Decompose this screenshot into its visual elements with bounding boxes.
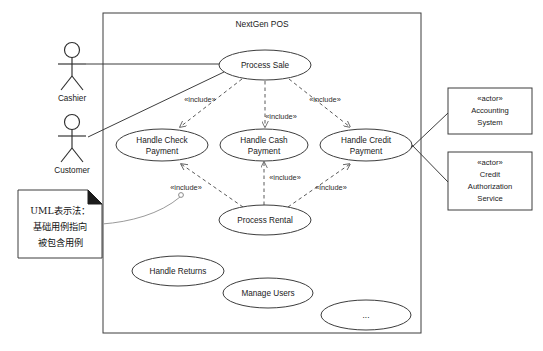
use-case-handle-returns: Handle Returns xyxy=(132,256,224,286)
actor-cashier-label: Cashier xyxy=(58,94,86,103)
use-case-handle-cash-payment-label-2: Payment xyxy=(248,147,281,156)
use-case-process-sale-label: Process Sale xyxy=(241,61,290,70)
uml-notation-note-line-1: UML表示法： xyxy=(30,205,89,216)
actor-customer: Customer xyxy=(54,115,90,176)
use-case-process-rental: Process Rental xyxy=(219,205,311,235)
use-case-handle-credit-payment-label-2: Payment xyxy=(350,147,383,156)
uml-notation-note-line-2: 基础用例指向 xyxy=(33,221,87,232)
uml-notation-note: UML表示法： 基础用例指向 被包含用例 xyxy=(18,190,102,258)
use-case-handle-cash-payment-label-1: Handle Cash xyxy=(240,136,288,145)
use-case-manage-users: Manage Users xyxy=(223,278,313,308)
external-actor-credit-authorization-service-stereotype: «actor» xyxy=(477,158,502,167)
external-actor-credit-authorization-service-name-1: Credit xyxy=(480,170,501,179)
note-connector-anchor-dot xyxy=(179,193,184,198)
use-case-ellipsis: ... xyxy=(321,300,411,330)
system-boundary-title: NextGen POS xyxy=(235,19,288,29)
use-case-handle-credit-payment: Handle Credit Payment xyxy=(320,129,412,161)
external-actor-credit-authorization-service: «actor» Credit Authorization Service xyxy=(448,152,532,210)
uml-notation-note-line-3: 被包含用例 xyxy=(38,237,83,248)
use-case-process-rental-label: Process Rental xyxy=(237,216,293,225)
use-case-handle-check-payment-label-2: Payment xyxy=(146,147,179,156)
uml-use-case-diagram-page: NextGen POS Cashier Customer xyxy=(0,0,543,351)
use-case-manage-users-label: Manage Users xyxy=(241,289,294,298)
include-label-sale-check: «include» xyxy=(184,95,216,104)
include-label-sale-credit: «include» xyxy=(309,95,341,104)
external-actor-accounting-system-name-1: Accounting xyxy=(471,106,509,115)
actor-customer-label: Customer xyxy=(54,166,90,175)
include-label-rental-check: «include» xyxy=(170,183,202,192)
use-case-handle-credit-payment-label-1: Handle Credit xyxy=(341,136,392,145)
use-case-handle-check-payment-label-1: Handle Check xyxy=(136,136,188,145)
use-case-handle-returns-label: Handle Returns xyxy=(150,267,207,276)
include-label-sale-cash: «include» xyxy=(265,112,297,121)
external-actor-accounting-system-stereotype: «actor» xyxy=(477,94,502,103)
use-case-handle-cash-payment: Handle Cash Payment xyxy=(220,129,308,161)
external-actor-accounting-system-name-2: System xyxy=(477,118,502,127)
include-label-rental-cash: «include» xyxy=(269,173,301,182)
use-case-process-sale: Process Sale xyxy=(219,50,311,80)
external-actor-credit-authorization-service-name-2: Authorization xyxy=(468,182,512,191)
actor-cashier: Cashier xyxy=(58,43,86,104)
external-actor-accounting-system: «actor» Accounting System xyxy=(448,88,532,134)
external-actor-credit-authorization-service-name-3: Service xyxy=(477,194,502,203)
use-case-handle-check-payment: Handle Check Payment xyxy=(116,129,208,161)
use-case-ellipsis-label: ... xyxy=(363,311,370,320)
include-label-rental-credit: «include» xyxy=(315,183,347,192)
diagram-canvas: NextGen POS Cashier Customer xyxy=(0,0,543,351)
